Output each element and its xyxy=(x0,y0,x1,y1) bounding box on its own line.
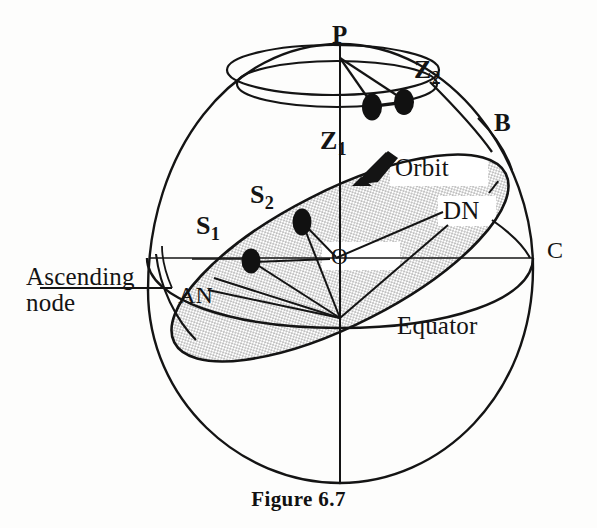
label-pole: P xyxy=(332,22,347,48)
label-orbit: Orbit xyxy=(395,155,449,181)
label-satellite-1-subscript: 1 xyxy=(211,224,220,244)
label-zenith-2: Z2 xyxy=(414,57,441,87)
dot-S2 xyxy=(293,209,312,236)
label-ascending-node-abbrev: AN xyxy=(178,283,213,307)
label-ascending-node: Ascending node xyxy=(26,264,135,315)
label-zenith-1-subscript: 1 xyxy=(338,139,347,159)
label-sphere-center: O xyxy=(331,245,348,268)
label-zenith-2-base: Z xyxy=(414,55,432,84)
figure-container: P Z2 Z1 B Orbit S2 DN S1 O C Ascending n… xyxy=(0,0,597,528)
label-satellite-2-base: S xyxy=(250,180,265,209)
label-ascending-node-line2: node xyxy=(26,290,135,316)
label-point-b: B xyxy=(494,110,511,136)
label-satellite-2: S2 xyxy=(250,182,274,212)
figure-caption: Figure 6.7 xyxy=(0,487,597,512)
label-zenith-2-subscript: 2 xyxy=(432,68,441,88)
label-ascending-node-line1: Ascending xyxy=(26,264,135,290)
label-zenith-1: Z1 xyxy=(320,128,347,158)
meridian-z2-to-b xyxy=(430,82,492,152)
label-zenith-1-base: Z xyxy=(320,126,338,155)
label-descending-node: DN xyxy=(443,198,480,224)
label-equator: Equator xyxy=(397,313,478,339)
dot-S1 xyxy=(242,249,261,274)
dot-Z1 xyxy=(362,94,382,121)
label-satellite-2-subscript: 2 xyxy=(265,193,274,213)
label-satellite-1-base: S xyxy=(196,211,211,240)
label-satellite-1: S1 xyxy=(196,213,220,243)
label-point-c: C xyxy=(547,238,563,262)
dot-Z2 xyxy=(394,89,414,115)
